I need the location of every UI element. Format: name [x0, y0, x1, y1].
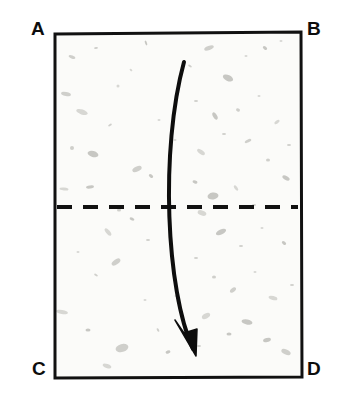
paper-fleck	[245, 55, 248, 57]
paper-fleck	[227, 333, 232, 336]
corner-label-b: B	[307, 19, 321, 38]
paper-diagram-svg	[0, 0, 338, 400]
paper-fleck	[86, 329, 91, 332]
fold-diagram: A B C D	[0, 0, 338, 400]
corner-label-d: D	[307, 359, 321, 378]
paper-fleck	[287, 144, 291, 146]
paper-fleck	[239, 245, 243, 247]
paper-fleck	[194, 100, 198, 102]
paper-fleck	[290, 284, 294, 286]
paper-fleck	[261, 227, 264, 229]
paper-fleck	[146, 239, 150, 241]
paper-fleck	[194, 257, 198, 259]
paper-fleck	[222, 133, 226, 135]
paper-fleck	[158, 119, 161, 121]
paper-fleck	[266, 159, 270, 162]
paper-fleck	[212, 276, 216, 279]
paper-fleck	[197, 345, 201, 347]
corner-label-c: C	[32, 359, 46, 378]
paper-fleck	[117, 85, 120, 88]
paper-fleck	[70, 146, 74, 150]
corner-label-a: A	[31, 19, 45, 38]
paper-fleck	[258, 95, 261, 97]
paper-fleck	[144, 299, 147, 301]
paper-fleck	[280, 40, 283, 42]
paper-fleck	[254, 271, 257, 273]
paper-fleck	[77, 251, 80, 253]
paper-fleck	[174, 139, 177, 141]
